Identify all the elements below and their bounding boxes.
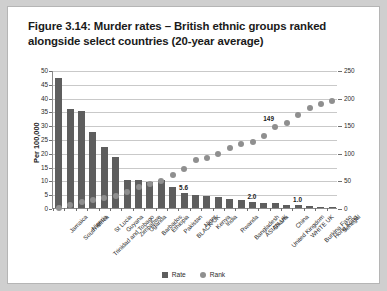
bar [55, 78, 62, 208]
rank-point [318, 101, 324, 107]
x-axis-tick-mark [87, 208, 88, 211]
x-axis-tick-mark [53, 208, 54, 211]
y-axis-tick-label: 15 [26, 165, 48, 171]
x-axis-tick-mark [315, 208, 316, 211]
x-axis-tick-mark [224, 208, 225, 211]
y-axis-tick-label: 5 [26, 192, 48, 198]
y-axis-tick-label: 45 [26, 82, 48, 88]
rank-point [193, 157, 199, 163]
x-axis-tick-mark [304, 208, 305, 211]
rank-value-label: 149 [263, 115, 274, 122]
x-axis-tick-mark [99, 208, 100, 211]
plot-area: 5.62.01491.0 [52, 71, 337, 209]
bar [295, 205, 302, 208]
x-axis-tick-mark [76, 208, 77, 211]
rank-point [204, 155, 210, 161]
rank-point [181, 166, 187, 172]
rank-point [307, 105, 313, 111]
x-axis-tick-mark [167, 208, 168, 211]
rank-point [227, 145, 233, 151]
y2-axis-tick-label: 0 [344, 206, 368, 212]
legend-square-icon [162, 272, 168, 278]
bar [181, 193, 188, 208]
bar [317, 207, 324, 208]
rank-point [136, 184, 142, 190]
gridline [53, 99, 337, 100]
y2-axis-tick-mark [338, 126, 342, 127]
rank-point [295, 112, 301, 118]
bar [169, 187, 176, 208]
x-axis-tick-mark [201, 208, 202, 211]
y-axis-title: Per 100,000 [32, 122, 41, 163]
y-axis-tick-label: 40 [26, 96, 48, 102]
rank-point [90, 197, 96, 203]
rank-point [79, 199, 85, 205]
x-axis-tick-mark [190, 208, 191, 211]
rank-point [215, 151, 221, 157]
bar [192, 195, 199, 208]
bar [283, 205, 290, 208]
y2-axis-tick-mark [338, 154, 342, 155]
x-axis-tick-mark [133, 208, 134, 211]
figure-title: Figure 3.14: Murder rates – British ethn… [28, 19, 368, 49]
y2-axis-tick-mark [338, 209, 342, 210]
y2-axis-tick-mark [338, 71, 342, 72]
rank-point [113, 193, 119, 199]
rank-point [56, 205, 62, 211]
bar [158, 180, 165, 208]
rank-point [147, 181, 153, 187]
rate-value-label: 2.0 [248, 193, 257, 200]
y-axis-tick-mark [49, 209, 52, 210]
bar [272, 203, 279, 208]
bar [249, 202, 256, 208]
x-axis-tick-mark [121, 208, 122, 211]
y2-axis-tick-label: 50 [344, 178, 368, 184]
legend-label: Rank [210, 271, 225, 278]
bar [112, 157, 119, 208]
gridline [53, 85, 337, 86]
chart-legend: RateRank [8, 271, 379, 278]
x-axis-tick-mark [235, 208, 236, 211]
y2-axis-tick-mark [338, 181, 342, 182]
rank-point [250, 139, 256, 145]
bar [215, 197, 222, 208]
rank-point [261, 133, 267, 139]
x-axis-tick-mark [156, 208, 157, 211]
y2-axis-tick-label: 100 [344, 151, 368, 157]
bar [78, 111, 85, 208]
x-axis-tick-mark [270, 208, 271, 211]
legend-item: Rate [162, 271, 186, 278]
bar [329, 207, 336, 208]
figure-card: Figure 3.14: Murder rates – British ethn… [7, 6, 380, 284]
x-axis-tick-mark [178, 208, 179, 211]
rank-point [170, 172, 176, 178]
y2-axis-tick-mark [338, 99, 342, 100]
rank-point [67, 202, 73, 208]
x-axis-tick-mark [213, 208, 214, 211]
x-axis-tick-mark [327, 208, 328, 211]
y-axis-tick-label: 50 [26, 68, 48, 74]
rank-point [329, 98, 335, 104]
y-axis-tick-label: 10 [26, 178, 48, 184]
legend-label: Rate [172, 271, 186, 278]
y-axis-tick-label: 35 [26, 109, 48, 115]
rank-point [272, 124, 278, 130]
rank-point [238, 141, 244, 147]
bar [226, 199, 233, 208]
legend-circle-icon [200, 272, 206, 278]
bar [67, 109, 74, 208]
x-axis-tick-mark [110, 208, 111, 211]
bar [306, 206, 313, 208]
y2-axis-tick-label: 150 [344, 123, 368, 129]
rate-value-label: 1.0 [293, 196, 302, 203]
bar [260, 203, 267, 208]
gridline [53, 126, 337, 127]
y-axis-tick-label: 0 [26, 206, 48, 212]
x-axis-tick-mark [292, 208, 293, 211]
rate-value-label: 5.6 [179, 184, 188, 191]
x-axis-tick-mark [144, 208, 145, 211]
y2-axis-tick-label: 200 [344, 96, 368, 102]
x-axis-tick-mark [247, 208, 248, 211]
y2-axis-tick-label: 250 [344, 68, 368, 74]
figure-container: Figure 3.14: Murder rates – British ethn… [0, 0, 387, 291]
